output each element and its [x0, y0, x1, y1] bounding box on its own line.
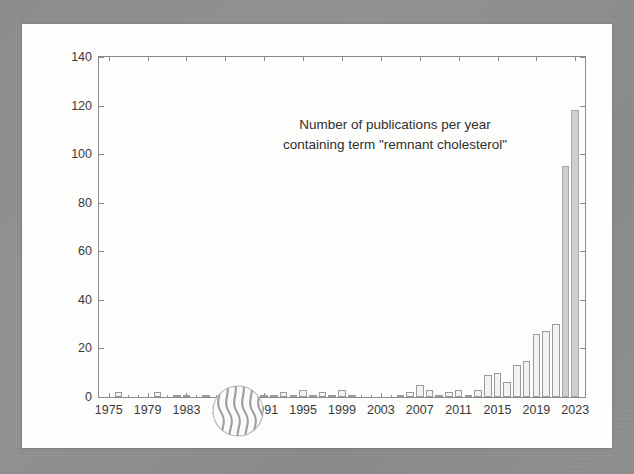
y-axis-label: 80 [78, 196, 92, 210]
chart-bar [280, 392, 288, 397]
y-axis-label: 120 [71, 99, 92, 113]
x-axis-tick-top [264, 57, 265, 61]
y-axis-tick-right [580, 348, 585, 349]
chart-bar [503, 382, 511, 397]
y-axis-tick-right [580, 300, 585, 301]
y-axis-tick-right [580, 397, 585, 398]
y-axis-tick-right [580, 57, 585, 58]
y-axis-tick [99, 348, 104, 349]
chart-title: Number of publications per year containi… [195, 115, 595, 154]
chart-bar [348, 395, 356, 397]
chart-bar [406, 392, 414, 397]
chart-bar [542, 331, 550, 397]
y-axis-label: 140 [71, 50, 92, 64]
x-axis-tick [381, 393, 382, 397]
y-axis-label: 20 [78, 341, 92, 355]
x-axis-tick-top [536, 57, 537, 61]
y-axis-label: 60 [78, 244, 92, 258]
x-axis-tick-top [109, 57, 110, 61]
x-axis-minor-tick [391, 395, 392, 397]
chart-bar [202, 395, 210, 397]
chart-bar [338, 390, 346, 397]
x-axis-tick [148, 393, 149, 397]
chart-bar [154, 392, 162, 397]
x-axis-tick-top [381, 57, 382, 61]
x-axis-tick-top [498, 57, 499, 61]
chart-bar [484, 375, 492, 397]
y-axis-tick-right [580, 203, 585, 204]
x-axis-tick-top [575, 57, 576, 61]
x-axis-minor-tick [361, 395, 362, 397]
chart-bar [270, 395, 278, 397]
chart-title-line-1: Number of publications per year [195, 115, 595, 135]
chart-bar [435, 395, 443, 397]
x-axis-tick-top [342, 57, 343, 61]
chart-bar [328, 395, 336, 397]
chart-bar [299, 390, 307, 397]
x-axis-label: 1999 [328, 403, 356, 417]
x-axis-tick-top [420, 57, 421, 61]
x-axis-tick-top [459, 57, 460, 61]
x-axis-label: 2003 [367, 403, 395, 417]
wavy-stripes-circle-logo [211, 384, 265, 438]
chart-bar [309, 395, 317, 397]
y-axis-tick [99, 203, 104, 204]
x-axis-tick [109, 393, 110, 397]
y-axis-tick-right [580, 154, 585, 155]
chart-bar [494, 373, 502, 397]
y-axis-tick [99, 106, 104, 107]
x-axis-label: 2007 [406, 403, 434, 417]
x-axis-minor-tick [371, 395, 372, 397]
x-axis-minor-tick [128, 395, 129, 397]
chart-bar [183, 395, 191, 397]
x-axis-minor-tick [167, 395, 168, 397]
y-axis-tick-right [580, 251, 585, 252]
figure-card: 0204060801001201401975197919831987199119… [22, 24, 612, 448]
x-axis-label: 1995 [289, 403, 317, 417]
x-axis-label: 1983 [173, 403, 201, 417]
chart-bar [397, 395, 405, 397]
x-axis-minor-tick [138, 395, 139, 397]
scanned-page-background: 0204060801001201401975197919831987199119… [0, 0, 634, 474]
y-axis-tick-right [580, 106, 585, 107]
x-axis-label: 1975 [95, 403, 123, 417]
chart-bar [523, 361, 531, 397]
x-axis-label: 1979 [134, 403, 162, 417]
y-axis-tick [99, 397, 104, 398]
y-axis-tick [99, 154, 104, 155]
chart-bar [290, 395, 298, 397]
chart-bar [513, 365, 521, 397]
chart-bar [416, 385, 424, 397]
y-axis-label: 0 [85, 390, 92, 404]
x-axis-tick-top [225, 57, 226, 61]
x-axis-tick-top [186, 57, 187, 61]
x-axis-minor-tick [196, 395, 197, 397]
y-axis-tick [99, 300, 104, 301]
x-axis-tick-top [148, 57, 149, 61]
x-axis-label: 2011 [445, 403, 472, 417]
x-axis-label: 2019 [522, 403, 550, 417]
chart-bar [445, 392, 453, 397]
chart-title-line-2: containing term "remnant cholesterol" [195, 135, 595, 155]
x-axis-label: 2015 [484, 403, 512, 417]
chart-bar [552, 324, 560, 397]
chart-bar [474, 390, 482, 397]
x-axis-label: 2023 [561, 403, 589, 417]
chart-plot-area: 0204060801001201401975197919831987199119… [98, 56, 586, 398]
chart-bar [173, 395, 181, 397]
y-axis-tick [99, 251, 104, 252]
chart-canvas: 0204060801001201401975197919831987199119… [99, 57, 585, 397]
y-axis-label: 40 [78, 293, 92, 307]
y-axis-tick [99, 57, 104, 58]
chart-bar [533, 334, 541, 397]
chart-bar [455, 390, 463, 397]
x-axis-tick-top [303, 57, 304, 61]
y-axis-label: 100 [71, 147, 92, 161]
chart-bar [465, 395, 473, 397]
chart-bar [115, 392, 123, 397]
chart-bar [319, 392, 327, 397]
chart-bar [426, 390, 434, 397]
chart-bar-overlay [562, 166, 570, 397]
